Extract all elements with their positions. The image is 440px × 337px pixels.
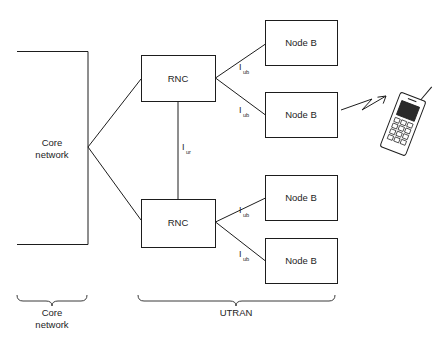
rnc-top-label: RNC	[168, 73, 189, 84]
iur-link-group: I ur	[178, 102, 191, 200]
node-b-3: Node B	[266, 176, 338, 221]
iur-label-base: I	[182, 142, 185, 152]
node-b-4: Node B	[266, 239, 338, 284]
iub-1-label-base: I	[239, 62, 242, 72]
link-rnc-top-to-node-b-1	[216, 44, 266, 78]
radio-link-icon	[341, 96, 386, 110]
radio-zigzag-icon	[341, 96, 386, 110]
iub-3-label-subscript: ub	[243, 212, 249, 218]
node-b-3-label: Node B	[285, 192, 317, 203]
iub-4-label-base: I	[239, 249, 242, 259]
core-network-group-brace: Core network	[17, 295, 87, 330]
phone-earpiece-icon	[408, 99, 416, 102]
iub-links-bottom-rnc: I ub I ub	[216, 198, 266, 262]
core-brace-label-line2: network	[35, 319, 69, 330]
node-b-2-label: Node B	[285, 109, 317, 120]
link-core-to-rnc-bottom	[88, 147, 141, 220]
core-brace-label-line1: Core	[42, 307, 63, 318]
diagram-canvas: Core network RNC RNC I ur Node B	[0, 0, 440, 337]
utran-brace-icon	[138, 295, 335, 306]
link-core-to-rnc-top	[88, 79, 141, 147]
iub-links-top-rnc: I ub I ub	[216, 44, 266, 118]
rnc-top-node: RNC	[142, 56, 216, 102]
utran-group-brace: UTRAN	[138, 295, 335, 318]
iub-1-label-subscript: ub	[243, 69, 249, 75]
iur-label-subscript: ur	[186, 149, 191, 155]
core-to-rnc-links	[88, 79, 141, 220]
core-network-node: Core network	[17, 52, 88, 245]
utran-brace-label: UTRAN	[220, 307, 253, 318]
core-network-label-line1: Core	[42, 137, 63, 148]
iub-2-label-base: I	[239, 105, 242, 115]
phone-antenna-icon	[421, 85, 432, 102]
core-brace-icon	[17, 295, 87, 306]
rnc-bottom-label: RNC	[168, 217, 189, 228]
iub-4-label-subscript: ub	[243, 256, 249, 262]
node-b-1-label: Node B	[285, 37, 317, 48]
node-b-4-label: Node B	[285, 255, 317, 266]
iub-3-label-base: I	[239, 205, 242, 215]
phone-keypad-icon	[387, 117, 413, 145]
node-b-2: Node B	[266, 93, 338, 138]
mobile-station-icon	[380, 77, 432, 156]
node-b-1: Node B	[266, 21, 338, 66]
core-network-label-line2: network	[35, 149, 69, 160]
phone-screen-icon	[396, 101, 419, 122]
iub-2-label-subscript: ub	[243, 112, 249, 118]
utran-architecture-diagram: Core network RNC RNC I ur Node B	[0, 0, 440, 337]
rnc-bottom-node: RNC	[142, 200, 216, 248]
